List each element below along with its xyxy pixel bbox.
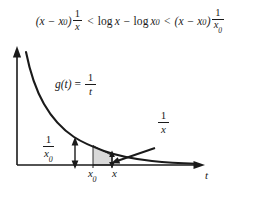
right-term-minus: − <box>187 15 194 27</box>
left-term-x0-subscript: 0 <box>63 18 67 27</box>
curve-label-fraction: 1 t <box>85 72 96 97</box>
height-label-inv-x0-fraction: 1 x0 <box>43 134 54 162</box>
right-term-x: x <box>179 15 184 27</box>
inequality-expression: (x−x0) 1 x < logx − logx0 < (x−x0) 1 x0 <box>0 6 261 36</box>
math-figure: (x−x0) 1 x < logx − logx0 < (x−x0) 1 x0 <box>0 0 261 199</box>
curve-label-name: g(t) <box>55 79 72 91</box>
height-label-inv-x0: 1 x0 <box>43 134 54 162</box>
height-label-inv-x0-den-subscript: 0 <box>49 155 53 164</box>
y-axis-arrowhead <box>13 46 21 58</box>
curve-label-g-of-t: g(t) = 1 t <box>55 72 96 97</box>
relation-less-than-2: < <box>164 15 171 27</box>
curve-label-equals: = <box>75 79 82 91</box>
left-term-close-paren: ) <box>68 15 72 27</box>
log-2-name: log <box>134 15 149 27</box>
right-fraction-denominator-subscript: 0 <box>218 26 222 35</box>
x-axis-tick-label-x0-subscript: 0 <box>93 175 97 184</box>
curve-label-denominator: t <box>89 85 92 97</box>
log-1-argument: x <box>115 15 120 27</box>
x-axis-arrowhead <box>194 161 206 169</box>
left-term-x: x <box>40 15 45 27</box>
left-term-minus: − <box>48 15 55 27</box>
height-label-inv-x-numerator: 1 <box>161 110 167 122</box>
right-fraction-one-over-x0: 1 x0 <box>212 8 225 33</box>
left-fraction-one-over-x: 1 x <box>73 9 82 32</box>
left-fraction-numerator: 1 <box>73 9 82 20</box>
right-fraction-denominator: x0 <box>212 20 225 33</box>
height-label-inv-x: 1 x <box>158 110 169 135</box>
x-axis-tick-label-x0: x0 <box>88 168 97 182</box>
x-axis-label-t: t <box>205 170 208 181</box>
right-term-x0-subscript: 0 <box>202 18 206 27</box>
log-1-name: log <box>98 15 113 27</box>
relation-less-than-1: < <box>87 15 94 27</box>
plot-svg <box>0 38 261 199</box>
x-axis-tick-label-x: x <box>112 168 117 179</box>
right-fraction-numerator: 1 <box>213 8 222 19</box>
height-label-inv-x-denominator: x <box>161 123 166 135</box>
log-2-argument-subscript: 0 <box>155 18 159 27</box>
right-term-close-paren: ) <box>207 15 211 27</box>
height-label-inv-x0-numerator: 1 <box>46 134 52 146</box>
hyperbola-plot <box>0 38 261 199</box>
curve-label-numerator: 1 <box>88 72 94 84</box>
left-fraction-denominator: x <box>73 21 82 32</box>
height-label-inv-x-fraction: 1 x <box>158 110 169 135</box>
middle-minus: − <box>123 15 130 27</box>
height-label-inv-x0-denominator: x0 <box>44 147 53 162</box>
